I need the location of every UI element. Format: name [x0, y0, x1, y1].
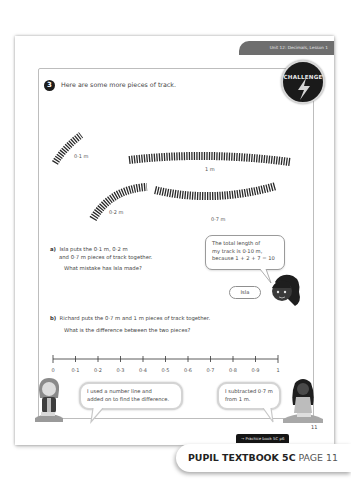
- question-frame: 3 Here are some more pieces of track. 0·…: [38, 68, 314, 419]
- isla-bubble-line3: because 1 + 2 + 7 = 10: [212, 255, 275, 261]
- right-speech-bubble: I subtracted 0·7 m from 1 m.: [217, 382, 281, 410]
- girl-character-icon: [281, 377, 325, 425]
- textbook-title: PUPIL TEXTBOOK 5C: [188, 452, 296, 463]
- textbook-page: Unit 12: Decimals, Lesson 1 3 Here are s…: [15, 36, 334, 445]
- unit-lesson-tab: Unit 12: Decimals, Lesson 1: [239, 41, 334, 55]
- part-a-line2: and 0·7 m pieces of track together.: [50, 254, 152, 260]
- tick-label: 0·3: [117, 367, 125, 373]
- tick-label: 0: [51, 367, 54, 373]
- tick-label: 0·5: [162, 367, 170, 373]
- isla-character-icon: [267, 272, 303, 308]
- lightning-bolt-icon: [295, 78, 313, 100]
- part-b-question: What is the difference between the two p…: [64, 327, 190, 335]
- isla-name-tag: Isla: [229, 286, 261, 299]
- track-label-0-7m: 0·7 m: [211, 216, 225, 222]
- challenge-badge: CHALLENGE: [281, 60, 325, 104]
- right-bubble-line2: from 1 m.: [225, 396, 250, 402]
- number-line-labels: 0 0·1 0·2 0·3 0·4 0·5 0·6 0·7 0·8 0·9 1: [51, 367, 281, 375]
- tick-label: 0·2: [94, 367, 102, 373]
- tick-label: 0·1: [72, 367, 80, 373]
- question-prompt: Here are some more pieces of track.: [61, 81, 176, 88]
- part-b-marker: b): [50, 315, 56, 321]
- part-a-marker: a): [50, 246, 56, 252]
- part-b-text: b) Richard puts the 0·7 m and 1 m pieces…: [50, 315, 210, 323]
- right-bubble-line1: I subtracted 0·7 m: [225, 388, 273, 394]
- track-label-0-1m: 0·1 m: [74, 153, 88, 159]
- practice-book-link[interactable]: → Practice book 5C p6: [236, 434, 289, 443]
- track-label-1m: 1 m: [205, 166, 215, 172]
- track-0-1m-icon: [51, 129, 91, 169]
- pupil-textbook-label: PUPIL TEXTBOOK 5CPAGE 11: [176, 444, 351, 472]
- tick-label: 0·4: [139, 367, 147, 373]
- left-bubble-tail-icon: [89, 408, 107, 424]
- part-b-line1: Richard puts the 0·7 m and 1 m pieces of…: [60, 315, 211, 321]
- richard-character-icon: [33, 376, 65, 424]
- unit-lesson-text: Unit 12: Decimals, Lesson 1: [270, 45, 328, 50]
- page-number: 11: [311, 424, 317, 430]
- tick-label: 1: [276, 367, 279, 373]
- tick-label: 0·7: [207, 367, 215, 373]
- isla-bubble-line2: my track is 0·10 m,: [212, 248, 262, 254]
- tick-label: 0·8: [229, 367, 237, 373]
- number-line: [51, 353, 281, 365]
- question-number-badge: 3: [44, 80, 55, 91]
- right-bubble-tail-icon: [261, 408, 277, 424]
- left-speech-bubble: I used a number line and added on to fin…: [79, 382, 183, 410]
- left-bubble-line1: I used a number line and: [87, 388, 152, 394]
- track-label-0-2m: 0·2 m: [109, 209, 123, 215]
- isla-bubble-line1: The total length of: [212, 240, 260, 246]
- isla-speech-bubble: The total length of my track is 0·10 m, …: [205, 235, 285, 270]
- track-0-7m-icon: [153, 182, 278, 212]
- track-1m-icon: [127, 148, 292, 168]
- part-a-question: What mistake has Isla made?: [64, 265, 142, 273]
- part-a-text: a) Isla puts the 0·1 m, 0·2 m and 0·7 m …: [50, 246, 152, 261]
- tick-label: 0·6: [184, 367, 192, 373]
- part-a-line1: Isla puts the 0·1 m, 0·2 m: [59, 246, 127, 252]
- tick-label: 0·9: [252, 367, 260, 373]
- track-0-2m-icon: [89, 179, 149, 224]
- textbook-page: PAGE 11: [299, 452, 338, 463]
- left-bubble-line2: added on to find the difference.: [87, 396, 169, 402]
